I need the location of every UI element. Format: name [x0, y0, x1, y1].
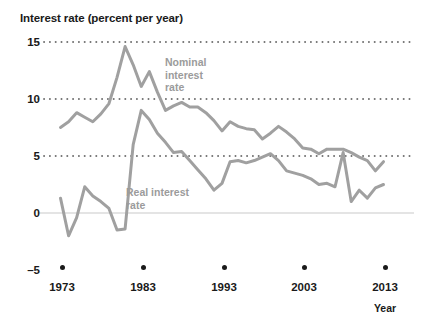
ytick-label-15: 15	[14, 36, 40, 48]
real-series-label: Real interest rate	[126, 186, 189, 211]
xtick-dot-2003	[302, 265, 307, 270]
ytick-label-10: 10	[14, 93, 40, 105]
real-series-label-line1: Real interest	[126, 186, 189, 199]
plot-area	[0, 0, 432, 323]
xtick-label-2013: 2013	[362, 281, 408, 293]
xtick-dot-1993	[222, 265, 227, 270]
xtick-label-1973: 1973	[39, 281, 85, 293]
nominal-series-label-line2: interest	[165, 69, 206, 82]
gridlines-group	[38, 42, 414, 156]
series-line-nominal	[61, 47, 384, 171]
ytick-label-5: 5	[14, 150, 40, 162]
nominal-series-label-line1: Nominal	[165, 56, 206, 69]
xtick-label-2003: 2003	[281, 281, 327, 293]
xtick-dot-2013	[383, 265, 388, 270]
xtick-label-1983: 1983	[120, 281, 166, 293]
xtick-dot-1973	[60, 265, 65, 270]
ytick-label-neg5: –5	[14, 264, 40, 276]
interest-rate-chart: Interest rate (percent per year) 15 10 5…	[0, 0, 432, 323]
nominal-series-label-line3: rate	[165, 81, 206, 94]
ytick-label-0: 0	[14, 207, 40, 219]
xtick-label-1993: 1993	[201, 281, 247, 293]
real-series-label-line2: rate	[126, 199, 189, 212]
nominal-series-label: Nominal interest rate	[165, 56, 206, 94]
x-axis-title: Year	[362, 302, 408, 314]
xtick-dot-1983	[141, 265, 146, 270]
series-paths-group	[61, 47, 384, 236]
